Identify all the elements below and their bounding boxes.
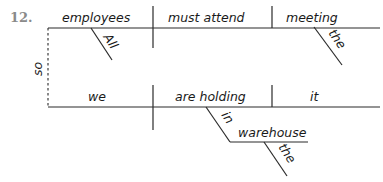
clause-1-verb: must attend <box>168 10 245 25</box>
clause-2-direct-object: it <box>310 89 319 104</box>
clause-1-subject-modifier: All <box>100 30 122 52</box>
sentence-diagram: 12. employees must attend meeting All th… <box>0 0 383 182</box>
clause-2-verb: are holding <box>175 89 246 104</box>
conjunction-label: so <box>30 61 45 76</box>
clause-1-direct-object: meeting <box>286 10 338 25</box>
prepositional-object-modifier: the <box>275 140 299 166</box>
prepositional-object: warehouse <box>238 125 307 140</box>
problem-number: 12. <box>10 10 33 25</box>
conjunction-connector: so <box>30 28 48 107</box>
clause-1-subject: employees <box>62 10 131 25</box>
preposition: in <box>218 108 237 126</box>
clause-2-subject: we <box>88 89 106 104</box>
clause-1: employees must attend meeting All the <box>48 6 380 65</box>
clause-2: we are holding it in warehouse the <box>48 85 380 176</box>
